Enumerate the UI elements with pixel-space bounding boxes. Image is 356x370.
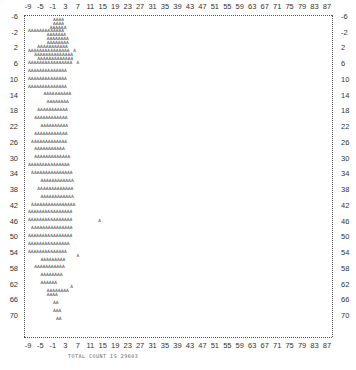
y-tick-label-right: 54: [341, 248, 349, 257]
plot-frame-bottom: [24, 337, 332, 338]
data-point-outlier: A: [76, 254, 79, 259]
plot-frame-left: [24, 15, 25, 337]
x-tick-label-bottom: 3: [63, 341, 67, 350]
data-row: AAAAAAAAAAAAA: [31, 140, 67, 145]
y-tick-label-right: -6: [341, 12, 348, 21]
x-tick-label-top: 39: [173, 2, 181, 11]
x-tick-label-bottom: 79: [298, 341, 306, 350]
x-tick-label-bottom: 23: [123, 341, 131, 350]
data-row: AAAAAAAAA: [40, 258, 65, 263]
x-tick-label-bottom: 11: [86, 341, 94, 350]
x-tick-label-top: 55: [223, 2, 231, 11]
data-row: AAAAAAAAAAAAAAA: [31, 171, 73, 176]
y-tick-label-left: 34: [4, 169, 18, 178]
x-tick-label-bottom: 83: [310, 341, 318, 350]
x-tick-label-bottom: 51: [211, 341, 219, 350]
x-tick-label-bottom: 35: [161, 341, 169, 350]
x-tick-label-top: 83: [310, 2, 318, 11]
y-tick-label-left: 54: [4, 248, 18, 257]
data-row: AAAAAAAAAA: [40, 124, 68, 129]
data-row: AAAAAAAAAAAAAAAA: [28, 218, 72, 223]
data-row: AAAAAAAAAAAAAAAA: [28, 210, 72, 215]
data-row: AAAAAAAAAAAAA: [37, 187, 73, 192]
y-tick-label-right: 50: [341, 232, 349, 241]
y-tick-label-left: -6: [4, 12, 18, 21]
x-tick-label-top: 67: [261, 2, 269, 11]
data-row: AAAAAAAAAAAAAA: [28, 85, 67, 90]
data-row: AAAAAAAAAAAAAA: [28, 250, 67, 255]
data-row: AAAAAAAAAAAAAAAA: [31, 203, 75, 208]
x-tick-label-bottom: -9: [25, 341, 32, 350]
data-row: AAAAAAAAAAAA: [34, 132, 67, 137]
x-tick-label-top: 75: [285, 2, 293, 11]
y-tick-label-left: -2: [4, 27, 18, 36]
data-row: AA: [56, 317, 62, 322]
data-row: AAAAAAAAAAAAAAAA: [28, 234, 72, 239]
y-tick-label-left: 18: [4, 106, 18, 115]
y-tick-label-left: 22: [4, 122, 18, 131]
y-tick-label-left: 10: [4, 74, 18, 83]
data-row: AAAAAA: [40, 281, 57, 286]
y-tick-label-left: 70: [4, 311, 18, 320]
data-row: AAAAAAAAAAAAAAAA: [28, 61, 72, 66]
y-tick-label-right: 38: [341, 185, 349, 194]
x-tick-label-bottom: 47: [198, 341, 206, 350]
data-row: AA: [53, 301, 59, 306]
y-tick-label-right: -2: [341, 27, 348, 36]
x-tick-label-bottom: -5: [37, 341, 44, 350]
x-tick-label-top: 59: [236, 2, 244, 11]
data-row: AAAAAAAAAAA: [34, 265, 64, 270]
x-tick-label-bottom: 7: [76, 341, 80, 350]
data-row: AAA: [53, 309, 61, 314]
x-tick-label-top: 87: [323, 2, 331, 11]
y-tick-label-left: 6: [4, 59, 18, 68]
x-tick-label-top: 63: [248, 2, 256, 11]
x-tick-label-bottom: -1: [50, 341, 57, 350]
data-row: AAAAAAAAAAAA: [40, 195, 73, 200]
x-tick-label-top: 27: [136, 2, 144, 11]
data-point-outlier: A: [70, 285, 73, 290]
y-tick-label-right: 62: [341, 279, 349, 288]
x-tick-label-top: 3: [63, 2, 67, 11]
x-tick-label-bottom: 67: [261, 341, 269, 350]
y-tick-label-right: 6: [341, 59, 345, 68]
x-tick-label-top: 19: [111, 2, 119, 11]
x-tick-label-bottom: 55: [223, 341, 231, 350]
x-tick-label-bottom: 15: [99, 341, 107, 350]
y-tick-label-right: 22: [341, 122, 349, 131]
y-tick-label-left: 46: [4, 216, 18, 225]
plot-frame-right: [332, 15, 333, 337]
y-tick-label-right: 46: [341, 216, 349, 225]
data-point-outlier: A: [98, 218, 101, 223]
y-tick-label-left: 66: [4, 295, 18, 304]
data-row: AAAAAAAA: [47, 100, 69, 105]
y-tick-label-left: 42: [4, 200, 18, 209]
x-tick-label-bottom: 71: [273, 341, 281, 350]
x-tick-label-top: 15: [99, 2, 107, 11]
data-point-outlier: A: [76, 61, 79, 66]
y-tick-label-left: 26: [4, 137, 18, 146]
data-row: AAAAAAAAAAAA: [34, 116, 67, 121]
x-tick-label-top: 23: [123, 2, 131, 11]
x-tick-label-top: 35: [161, 2, 169, 11]
data-row: AAAAAAAA: [40, 273, 62, 278]
data-row: AAAAAAAAAA: [44, 92, 72, 97]
data-row: AAAAAAAAAAAA: [40, 179, 73, 184]
y-tick-label-right: 10: [341, 74, 349, 83]
x-tick-label-top: 31: [148, 2, 156, 11]
x-tick-label-bottom: 19: [111, 341, 119, 350]
data-row: AAAAAAAAAAAAAAA: [28, 163, 70, 168]
y-tick-label-left: 62: [4, 279, 18, 288]
data-row: AAAAAAAAAAAAAAA: [31, 226, 73, 231]
y-tick-label-left: 30: [4, 153, 18, 162]
x-tick-label-bottom: 63: [248, 341, 256, 350]
y-tick-label-right: 14: [341, 90, 349, 99]
y-tick-label-right: 34: [341, 169, 349, 178]
data-row: AAAAAAAAAAA: [34, 147, 64, 152]
y-tick-label-right: 66: [341, 295, 349, 304]
y-tick-label-right: 18: [341, 106, 349, 115]
x-tick-label-top: 11: [86, 2, 94, 11]
data-point-outlier: A: [73, 49, 76, 54]
x-tick-label-top: 7: [76, 2, 80, 11]
x-tick-label-top: -1: [50, 2, 57, 11]
